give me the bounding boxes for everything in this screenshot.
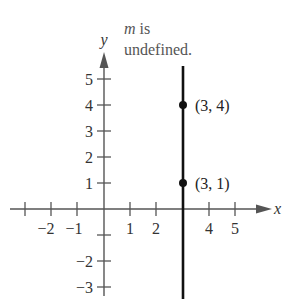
y-tick-label: −3 [76,279,93,296]
y-tick-label: 3 [85,123,93,140]
x-tick-label: 1 [126,220,134,237]
y-axis-arrow-icon [100,52,109,68]
y-axis-label: y [98,31,108,49]
y-tick-label: 5 [85,71,93,88]
y-tick-label: 4 [85,97,93,114]
x-tick-label: 2 [152,220,160,237]
x-tick-label: −2 [37,220,54,237]
point-label-3-1: (3, 1) [195,175,230,193]
slope-symbol: m [124,20,136,37]
x-tick-label: −1 [65,220,82,237]
point-3-4 [179,101,187,109]
x-axis-label: x [273,200,281,217]
slope-annotation-line1: m is [124,20,150,37]
point-label-3-4: (3, 4) [195,97,230,115]
x-tick-label: 5 [231,220,239,237]
y-tick-label: 1 [85,175,93,192]
y-tick-label: 2 [85,149,93,166]
x-tick-label: 4 [205,220,213,237]
point-3-1 [179,179,187,187]
x-axis [10,202,272,216]
coordinate-plane: −2 −1 1 2 4 5 5 4 3 2 1 −2 −3 y x m is u… [0,0,290,305]
x-axis-arrow-icon [256,205,272,214]
annotation-is: is [136,20,151,37]
y-tick-label: −2 [76,253,93,270]
slope-annotation-line2: undefined. [124,41,192,58]
y-axis [97,52,111,296]
